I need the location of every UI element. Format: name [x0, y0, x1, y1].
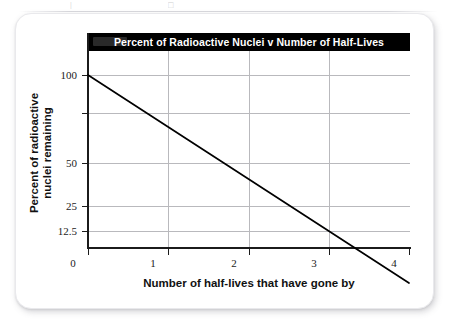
x-tick-label-4: 4 [379, 257, 409, 269]
gridline-x-1 [168, 51, 169, 248]
y-tick-100 [82, 75, 89, 76]
y-tick-50 [82, 163, 89, 164]
gridline-x-3 [329, 51, 330, 248]
y-tick-label-50: 50 [66, 157, 77, 169]
x-tick-4 [409, 249, 410, 255]
x-axis-title: Number of half-lives that have gone by [88, 277, 410, 289]
y-axis-title-line-2: nuclei remaining [41, 78, 54, 228]
y-tick-12.5 [82, 231, 89, 232]
scan-line-divider [18, 11, 438, 12]
x-tick-label-0: 0 [58, 257, 88, 269]
x-tick-0 [88, 249, 89, 255]
chart-title-bar: Percent of Radioactive Nuclei v Number o… [88, 33, 410, 51]
scan-artifact-left: | [70, 0, 84, 9]
y-axis-title-line-1: Percent of radioactive [28, 78, 41, 228]
x-tick-1 [168, 249, 169, 255]
x-tick-label-3: 3 [299, 257, 329, 269]
scan-artifact-mid: □ [168, 0, 182, 9]
y-tick-label-12.5: 12.5 [58, 225, 77, 237]
gridline-x-2 [249, 51, 250, 248]
chart-title: Percent of Radioactive Nuclei v Number o… [88, 36, 410, 48]
y-axis-line [87, 33, 89, 249]
y-tick-label-25: 25 [66, 200, 77, 212]
y-tick-75 [82, 113, 89, 114]
x-tick-3 [329, 249, 330, 255]
y-tick-label-100: 100 [61, 69, 78, 81]
x-tick-2 [249, 249, 250, 255]
y-axis-title: Percent of radioactive nuclei remaining [28, 78, 54, 228]
y-tick-25 [82, 206, 89, 207]
figure-root: | □ Percent of Radioactive Nuclei v Numb… [0, 0, 450, 329]
x-tick-label-1: 1 [138, 257, 168, 269]
x-tick-label-2: 2 [219, 257, 249, 269]
